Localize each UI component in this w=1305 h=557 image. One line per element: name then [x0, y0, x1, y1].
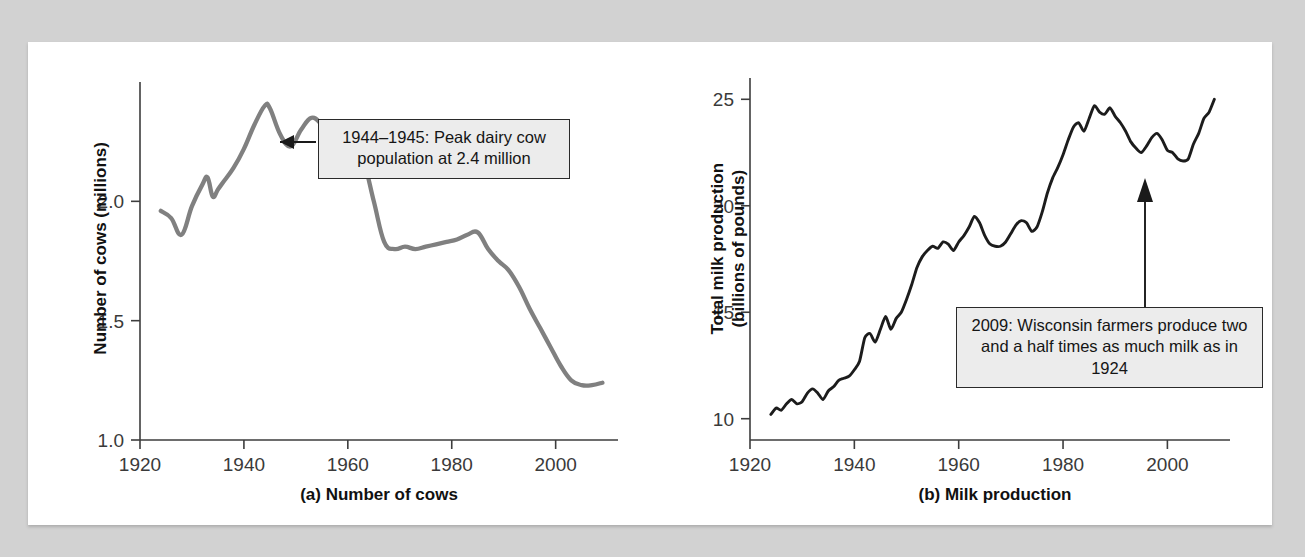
chart-caption-b: (b) Milk production	[650, 485, 1305, 505]
svg-text:25: 25	[713, 89, 734, 110]
callout-2009-production: 2009: Wisconsin farmers produce two and …	[956, 307, 1263, 388]
chart-caption-a: (a) Number of cows	[28, 485, 690, 505]
svg-text:1.0: 1.0	[98, 430, 124, 451]
scan-top-strip	[0, 0, 1305, 42]
svg-text:1980: 1980	[1042, 454, 1084, 475]
svg-text:1960: 1960	[938, 454, 980, 475]
svg-text:1960: 1960	[327, 454, 369, 475]
svg-text:1940: 1940	[833, 454, 875, 475]
figure-panel: 1.01.52.019201940196019802000 Number of …	[28, 42, 1272, 525]
chart-milk-production: 1015202519201940196019802000 Total milk …	[650, 42, 1272, 525]
svg-text:10: 10	[713, 409, 734, 430]
plot-area-cows: 1.01.52.019201940196019802000	[28, 42, 650, 482]
svg-text:1980: 1980	[431, 454, 473, 475]
svg-text:2000: 2000	[535, 454, 577, 475]
svg-text:1940: 1940	[223, 454, 265, 475]
svg-text:2000: 2000	[1146, 454, 1188, 475]
y-axis-label-milk: Total milk production (billions of pound…	[708, 124, 749, 374]
y-axis-label-cows: Number of cows (millions)	[91, 123, 112, 373]
chart-number-of-cows: 1.01.52.019201940196019802000 Number of …	[28, 42, 650, 525]
svg-text:1920: 1920	[729, 454, 771, 475]
svg-text:1920: 1920	[119, 454, 161, 475]
callout-peak-dairy-cow: 1944–1945: Peak dairy cow population at …	[318, 119, 570, 179]
